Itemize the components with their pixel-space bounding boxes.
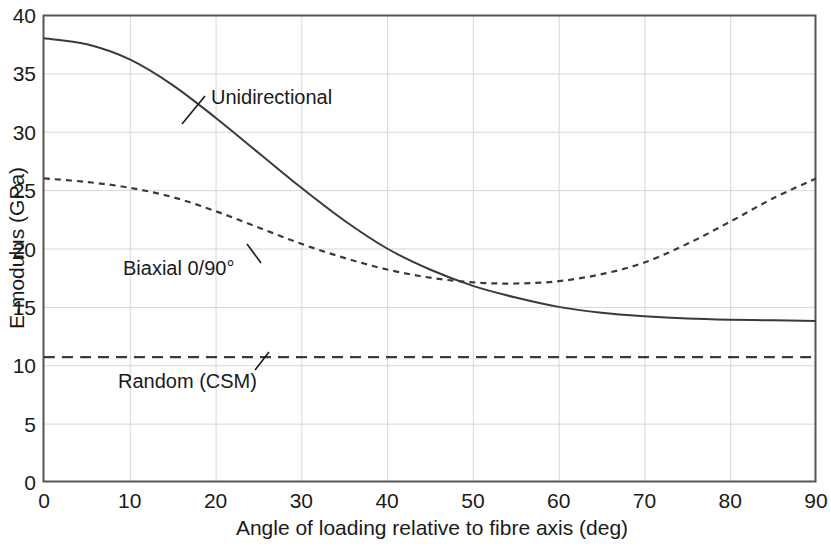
- y-axis-title: E-modulus (GPa): [5, 167, 28, 329]
- x-tick-label: 10: [118, 489, 141, 512]
- y-tick-label: 30: [13, 121, 36, 144]
- x-tick-label: 60: [547, 489, 570, 512]
- leader-line-biaxial: [247, 244, 261, 263]
- chart-container: Unidirectional Biaxial 0/90° Random (CSM…: [0, 0, 831, 550]
- x-tick-label: 80: [719, 489, 742, 512]
- y-tick-label: 0: [24, 471, 36, 494]
- annotation-label-biaxial: Biaxial 0/90°: [123, 257, 234, 279]
- x-tick-label: 70: [633, 489, 656, 512]
- annotation-label-unidirectional: Unidirectional: [211, 86, 332, 108]
- x-tick-label: 40: [375, 489, 398, 512]
- y-tick-label: 10: [13, 354, 36, 377]
- y-tick-label: 5: [24, 413, 36, 436]
- x-axis-tick-labels: 0102030405060708090: [38, 489, 828, 512]
- y-tick-label: 40: [13, 4, 36, 27]
- x-tick-label: 90: [804, 489, 827, 512]
- x-tick-label: 20: [204, 489, 227, 512]
- x-axis-title: Angle of loading relative to fibre axis …: [236, 516, 628, 539]
- x-tick-label: 50: [461, 489, 484, 512]
- e-modulus-vs-angle-chart: Unidirectional Biaxial 0/90° Random (CSM…: [0, 0, 831, 550]
- annotation-label-random-csm: Random (CSM): [118, 370, 257, 392]
- y-tick-label: 35: [13, 62, 36, 85]
- leader-line-random-csm: [255, 352, 269, 370]
- x-tick-label: 0: [38, 489, 50, 512]
- x-tick-label: 30: [290, 489, 313, 512]
